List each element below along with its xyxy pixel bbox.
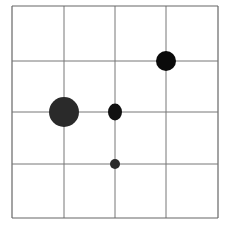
dot-marker-small [110,159,120,169]
dot-markers [49,51,176,169]
dot-marker-large [49,97,79,127]
dot-marker-medium-large [156,51,176,71]
dot-marker-medium [108,104,122,121]
grid-dot-diagram [0,0,229,226]
